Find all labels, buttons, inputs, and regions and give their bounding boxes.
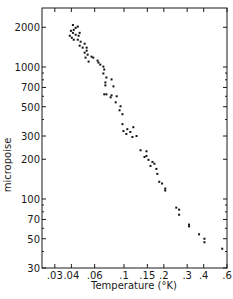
data-point <box>102 66 104 68</box>
data-point <box>116 95 118 97</box>
y-tick-label: 500 <box>21 102 40 113</box>
y-tick-label: 2000 <box>15 22 40 33</box>
data-point <box>153 163 155 165</box>
data-point <box>221 248 223 250</box>
data-point <box>86 50 88 52</box>
data-point <box>203 238 205 240</box>
y-tick-label: 30 <box>27 263 40 274</box>
data-point <box>178 209 180 211</box>
y-tick-label: 700 <box>21 82 40 93</box>
data-point <box>79 32 81 34</box>
data-points <box>69 24 223 250</box>
data-point <box>126 128 128 130</box>
data-point <box>78 35 80 37</box>
data-point <box>77 26 79 28</box>
data-point <box>111 94 113 96</box>
y-axis-title: micropoise <box>2 138 13 193</box>
data-point <box>82 47 84 49</box>
data-point <box>158 181 160 183</box>
data-point <box>188 224 190 226</box>
data-point <box>97 60 99 62</box>
data-point <box>70 30 72 32</box>
data-point <box>97 62 99 64</box>
data-point <box>164 189 166 191</box>
x-axis-title: Temperature (°K) <box>90 280 177 291</box>
data-point <box>143 156 145 158</box>
data-point <box>103 69 105 71</box>
viscosity-temperature-chart: .03.04.06.1.15.2.3.4.6 20001000700500300… <box>0 0 233 299</box>
data-point <box>103 93 105 95</box>
y-tick-label: 200 <box>21 154 40 165</box>
data-point <box>87 54 89 56</box>
data-point <box>92 57 94 59</box>
plot-frame <box>42 8 227 268</box>
data-point <box>178 214 180 216</box>
data-point <box>75 27 77 29</box>
data-point <box>112 85 114 87</box>
data-point <box>122 130 124 132</box>
y-tick-label: 50 <box>27 234 40 245</box>
data-point <box>80 41 82 43</box>
data-point <box>132 126 134 128</box>
x-tick-label: .03 <box>47 270 63 281</box>
y-tick-label: 100 <box>21 194 40 205</box>
data-point <box>121 113 123 115</box>
y-tick-label: 70 <box>27 214 40 225</box>
data-point <box>88 61 90 63</box>
x-tick-label: .04 <box>63 270 79 281</box>
data-point <box>99 64 101 66</box>
data-point <box>156 173 158 175</box>
data-point <box>151 161 153 163</box>
data-point <box>104 84 106 86</box>
data-point <box>91 56 93 58</box>
data-point <box>155 168 157 170</box>
data-point <box>73 29 75 31</box>
data-point <box>198 233 200 235</box>
data-point <box>120 105 122 107</box>
data-point <box>125 133 127 135</box>
data-point <box>164 188 166 190</box>
data-point <box>84 43 86 45</box>
data-point <box>72 32 74 34</box>
data-point <box>121 123 123 125</box>
data-point <box>203 241 205 243</box>
data-point <box>147 159 149 161</box>
y-axis: 20001000700500300200100705030 <box>15 22 227 274</box>
data-point <box>145 150 147 152</box>
data-point <box>175 207 177 209</box>
data-point <box>111 78 113 80</box>
data-point <box>75 34 77 36</box>
data-point <box>69 35 71 37</box>
data-point <box>110 96 112 98</box>
data-point <box>145 155 147 157</box>
data-point <box>105 76 107 78</box>
x-tick-label: .4 <box>199 270 209 281</box>
x-axis: .03.04.06.1.15.2.3.4.6 <box>47 8 232 281</box>
data-point <box>140 149 142 151</box>
data-point <box>129 131 131 133</box>
data-point <box>85 57 87 59</box>
y-tick-label: 1000 <box>15 62 40 73</box>
data-point <box>72 24 74 26</box>
data-point <box>115 101 117 103</box>
data-point <box>188 225 190 227</box>
data-point <box>149 165 151 167</box>
data-point <box>161 183 163 185</box>
data-point <box>71 37 73 39</box>
data-point <box>104 81 106 83</box>
data-point <box>84 52 86 54</box>
data-point <box>86 47 88 49</box>
data-point <box>136 135 138 137</box>
data-point <box>73 39 75 41</box>
data-point <box>119 109 121 111</box>
data-point <box>77 39 79 41</box>
x-tick-label: .3 <box>182 270 192 281</box>
data-point <box>131 136 133 138</box>
data-point <box>79 45 81 47</box>
x-tick-label: .6 <box>222 270 232 281</box>
y-tick-label: 300 <box>21 131 40 142</box>
data-point <box>102 73 104 75</box>
data-point <box>105 93 107 95</box>
